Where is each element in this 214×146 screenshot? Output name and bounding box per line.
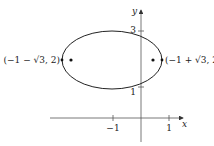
x-tick-label-neg1: −1 [106, 123, 119, 133]
ellipse [62, 31, 162, 89]
y-tick-label-1: 1 [130, 87, 136, 97]
vertex-right [161, 59, 164, 62]
y-tick-label-3: 3 [130, 25, 136, 35]
x-tick-label-1: 1 [166, 123, 172, 133]
y-axis-label: y [131, 6, 138, 16]
vertex-left [61, 59, 64, 62]
focus-right [151, 58, 154, 61]
focus-left [69, 58, 72, 61]
vertex-right-label: (−1 + √3, 2) [165, 55, 214, 65]
vertex-left-label: (−1 − √3, 2) [4, 55, 60, 65]
x-axis-label: x [182, 119, 187, 129]
ellipse-diagram: (−1 − √3, 2) (−1 + √3, 2) 3 1 −1 1 x y [0, 0, 214, 146]
